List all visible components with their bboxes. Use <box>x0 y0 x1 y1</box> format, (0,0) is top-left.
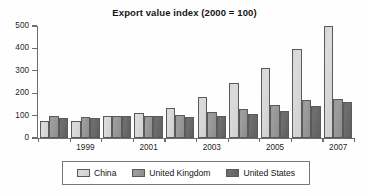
x-tick-mark <box>322 138 323 142</box>
bar-united-states-2002[interactable] <box>185 117 194 138</box>
bar-united-states-2003[interactable] <box>217 116 226 138</box>
bar-group <box>324 26 352 138</box>
x-tick-mark <box>101 138 102 142</box>
legend-item-united-states[interactable]: United States <box>226 168 295 178</box>
x-tick-label-2001: 2001 <box>129 143 169 152</box>
y-tick-label: 200 <box>0 88 29 97</box>
x-tick-label-2005: 2005 <box>255 143 295 152</box>
legend-label-united-kingdom: United Kingdom <box>149 168 210 178</box>
y-tick-label: 500 <box>0 21 29 30</box>
bar-china-1999[interactable] <box>71 121 80 138</box>
legend-item-china[interactable]: China <box>77 168 116 178</box>
bar-united-kingdom-2005[interactable] <box>270 105 279 138</box>
x-tick-label-2003: 2003 <box>192 143 232 152</box>
x-tick-label-2007: 2007 <box>318 143 358 152</box>
bar-china-2003[interactable] <box>198 97 207 138</box>
x-tick-mark <box>196 138 197 142</box>
y-tick-mark <box>32 48 37 49</box>
bar-group <box>292 26 320 138</box>
bar-china-2005[interactable] <box>261 68 270 138</box>
bar-china-2007[interactable] <box>324 26 333 138</box>
y-tick-label: 0 <box>0 133 29 142</box>
x-tick-mark <box>38 138 39 142</box>
bar-china-2000[interactable] <box>103 116 112 138</box>
y-tick-label: 300 <box>0 66 29 75</box>
bar-united-kingdom-2003[interactable] <box>207 112 216 138</box>
chart-title: Export value index (2000 = 100) <box>0 7 369 18</box>
bar-china-2006[interactable] <box>292 49 301 138</box>
x-tick-mark <box>164 138 165 142</box>
chart-figure: Export value index (2000 = 100) 01002003… <box>0 0 369 195</box>
y-tick-mark <box>32 137 37 138</box>
bar-china-2001[interactable] <box>134 113 143 138</box>
legend-label-china: China <box>94 168 116 178</box>
x-tick-mark <box>70 138 71 142</box>
bar-china-2002[interactable] <box>166 108 175 138</box>
bar-group <box>40 26 68 138</box>
bar-united-states-2000[interactable] <box>122 116 131 138</box>
bar-group <box>198 26 226 138</box>
y-tick-mark <box>32 115 37 116</box>
bar-china-1998[interactable] <box>40 121 49 138</box>
legend-swatch-united-kingdom-icon <box>132 169 145 177</box>
bar-united-states-2006[interactable] <box>311 106 320 138</box>
chart-legend: China United Kingdom United States <box>62 161 310 185</box>
bar-china-2004[interactable] <box>229 83 238 138</box>
bar-united-states-2007[interactable] <box>343 102 352 138</box>
bar-united-states-1998[interactable] <box>59 118 68 138</box>
legend-item-united-kingdom[interactable]: United Kingdom <box>132 168 210 178</box>
bar-group <box>261 26 289 138</box>
bar-united-states-2004[interactable] <box>248 114 257 138</box>
bar-united-kingdom-2007[interactable] <box>333 99 342 138</box>
bar-united-states-1999[interactable] <box>90 118 99 138</box>
bar-united-kingdom-2000[interactable] <box>112 116 121 138</box>
y-tick-mark <box>32 25 37 26</box>
x-tick-mark <box>133 138 134 142</box>
bar-united-kingdom-2001[interactable] <box>144 116 153 138</box>
plot-area <box>38 26 354 138</box>
y-tick-label: 400 <box>0 43 29 52</box>
x-tick-mark <box>228 138 229 142</box>
x-tick-mark <box>259 138 260 142</box>
bar-united-kingdom-1999[interactable] <box>81 117 90 139</box>
x-tick-label-1999: 1999 <box>65 143 105 152</box>
bar-united-kingdom-2004[interactable] <box>239 109 248 138</box>
bar-group <box>229 26 257 138</box>
x-tick-mark <box>291 138 292 142</box>
y-tick-mark <box>32 70 37 71</box>
y-tick-label: 100 <box>0 111 29 120</box>
x-tick-mark <box>354 138 355 142</box>
bar-united-states-2005[interactable] <box>280 111 289 138</box>
legend-swatch-united-states-icon <box>226 169 239 177</box>
bar-united-kingdom-2006[interactable] <box>302 100 311 138</box>
bar-group <box>166 26 194 138</box>
bar-group <box>134 26 162 138</box>
bar-group <box>71 26 99 138</box>
legend-label-united-states: United States <box>243 168 295 178</box>
y-tick-mark <box>32 93 37 94</box>
bar-united-kingdom-2002[interactable] <box>175 115 184 138</box>
bar-group <box>103 26 131 138</box>
bar-united-kingdom-1998[interactable] <box>49 116 58 138</box>
legend-swatch-china-icon <box>77 169 90 177</box>
bar-united-states-2001[interactable] <box>153 116 162 138</box>
